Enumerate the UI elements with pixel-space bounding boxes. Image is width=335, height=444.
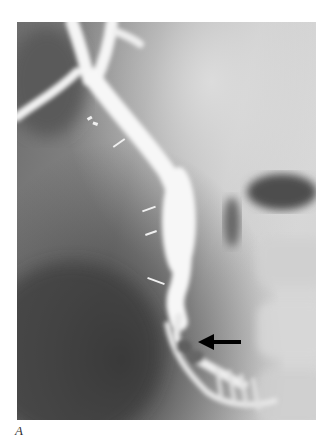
right-dark-structure bbox=[247, 174, 316, 210]
radiograph-image bbox=[17, 22, 316, 420]
radiograph-svg bbox=[17, 22, 316, 420]
small-dark-structure bbox=[224, 197, 240, 247]
vertebrae bbox=[257, 237, 316, 420]
panel-label: A bbox=[15, 423, 23, 439]
arrow-shaft bbox=[213, 340, 241, 344]
